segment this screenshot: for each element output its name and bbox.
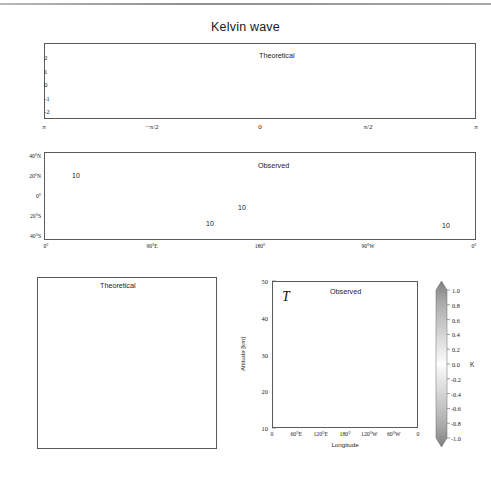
panel-d-xtick-6: 0: [417, 431, 420, 437]
colorbar-tick-1: 0.8: [452, 301, 460, 308]
panel-d-xtick-1: 60°E: [290, 431, 302, 437]
panel-b-xtick-0: 0°: [43, 243, 48, 249]
panel-b-label: Observed: [258, 161, 289, 170]
panel-d-xtick-3: 180°: [339, 431, 350, 437]
panel-a-ytick-1: 1: [44, 68, 48, 76]
panel-d-xtick-0: 0: [271, 431, 274, 437]
panel-theoretical-kelvin-wave: Theoretical 2 1 0 -1 -2 π −π/2 0 π/2 π: [44, 43, 476, 119]
colorbar-tick-10: -1.0: [451, 435, 461, 442]
panel-d-xtick-4: 120°W: [361, 431, 378, 437]
panel-a-xtick-0: π: [42, 123, 46, 131]
panel-d-frame: [272, 281, 418, 428]
panel-b-xtick-4: 0°: [471, 243, 476, 249]
panel-b-ytick-4: 40°S: [30, 233, 41, 239]
colorbar: 1.0 0.8 0.6 0.4 0.2 0.0 -0.2 -0.4 -0.6 -…: [436, 281, 447, 447]
panel-d-variable-label: T: [282, 289, 290, 305]
colorbar-tick-3: 0.4: [452, 331, 460, 338]
panel-c-label: Theoretical: [98, 281, 138, 290]
figure-root: Kelvin wave: [0, 0, 491, 492]
panel-observed-map: Observed 40°N 20°N 0° 20°S 40°S 0° 90°E …: [44, 152, 476, 240]
panel-b-xtick-3: 90°W: [361, 243, 374, 249]
panel-b-ytick-2: 0°: [36, 193, 41, 199]
panel-b-ytick-3: 20°S: [30, 213, 41, 219]
panel-a-ytick-4: -2: [44, 108, 50, 116]
colorbar-gradient: [436, 281, 447, 447]
panel-b-contour-label-3: 10: [442, 222, 450, 229]
panel-b-ytick-1: 20°N: [29, 173, 41, 179]
panel-d-ytick-0: 50: [262, 278, 268, 285]
colorbar-tick-7: -0.4: [451, 390, 461, 397]
panel-d-ytick-2: 30: [262, 351, 268, 358]
panel-d-label: Observed: [330, 287, 361, 296]
panel-a-ytick-0: 2: [44, 54, 48, 62]
panel-b-contour-label-0: 10: [72, 172, 80, 179]
panel-b-xtick-1: 90°E: [146, 243, 157, 249]
panel-d-y-axis-title: Altitude [km]: [239, 337, 246, 371]
panel-b-contour-label-2: 10: [206, 220, 214, 227]
panel-observed-altitude-longitude: T Observed 50 40 30 20 10 0 60°E 120°E 1…: [272, 281, 418, 428]
colorbar-tick-9: -0.8: [451, 420, 461, 427]
panel-a-xtick-2: 0: [258, 123, 262, 131]
panel-a-xtick-3: π/2: [364, 123, 373, 131]
panel-a-ytick-3: -1: [44, 95, 50, 103]
panel-d-ytick-1: 40: [262, 314, 268, 321]
panel-a-xtick-1: −π/2: [146, 123, 159, 131]
panel-a-xtick-4: π: [474, 123, 478, 131]
colorbar-tick-8: -0.6: [451, 405, 461, 412]
panel-a-ytick-2: 0: [44, 81, 48, 89]
panel-d-ytick-4: 10: [262, 425, 268, 432]
panel-a-label: Theoretical: [259, 51, 295, 60]
panel-b-ytick-0: 40°N: [29, 153, 41, 159]
panel-c-frame: [37, 277, 217, 449]
colorbar-tick-6: -0.2: [451, 375, 461, 382]
figure-title: Kelvin wave: [0, 20, 491, 34]
colorbar-tick-2: 0.6: [452, 316, 460, 323]
colorbar-tick-5: 0.0: [452, 361, 460, 368]
panel-theoretical-diagonal: LOW HIGH HIGH LOW Theoretical: [37, 277, 217, 449]
colorbar-tick-4: 0.2: [452, 346, 460, 353]
colorbar-unit: K: [470, 361, 474, 368]
top-divider-rule: [0, 3, 491, 5]
panel-d-x-axis-title: Longitude: [331, 441, 358, 448]
panel-b-xtick-2: 180°: [255, 243, 266, 249]
panel-b-contour-label-1: 10: [238, 204, 246, 211]
panel-d-ytick-3: 20: [262, 388, 268, 395]
panel-d-xtick-2: 120°E: [313, 431, 328, 437]
panel-d-xtick-5: 60°W: [387, 431, 401, 437]
colorbar-tick-0: 1.0: [452, 287, 460, 294]
